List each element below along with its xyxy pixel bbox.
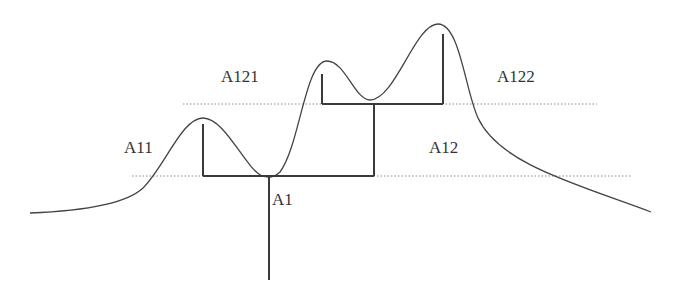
label-a121: A121 bbox=[221, 67, 259, 86]
contour-tree-diagram: A121 A122 A11 A12 A1 bbox=[0, 0, 676, 294]
label-a122: A122 bbox=[497, 67, 535, 86]
label-a11: A11 bbox=[124, 138, 153, 157]
label-a12: A12 bbox=[429, 138, 458, 157]
density-curve bbox=[30, 24, 651, 213]
label-a1: A1 bbox=[272, 190, 293, 209]
